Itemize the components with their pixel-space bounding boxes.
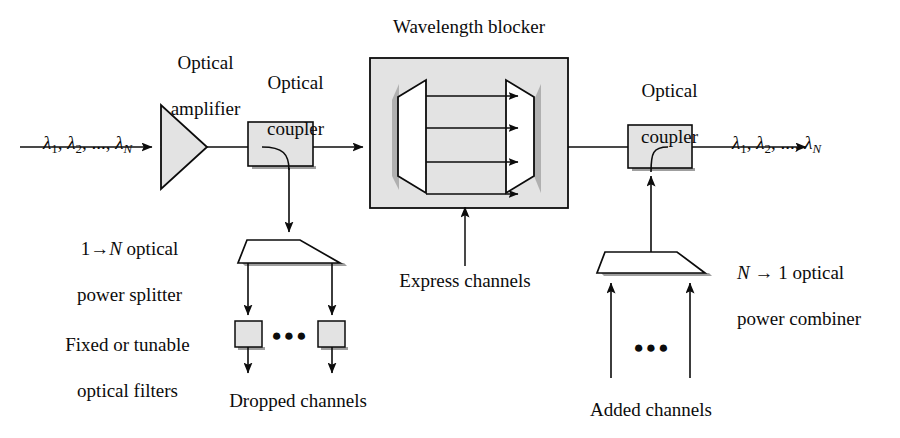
right-arrow-icon: → bbox=[90, 238, 109, 259]
lambda-sub-in-1: 1 bbox=[51, 141, 58, 156]
express-channels-label: Express channels bbox=[381, 270, 549, 292]
splitter-label-n: N bbox=[109, 238, 122, 259]
optical-filters-label: Fixed or tunable optical filters bbox=[28, 310, 208, 425]
lambda-sub-out-1: 1 bbox=[740, 141, 747, 156]
lambda-glyph-out-1: λ bbox=[732, 132, 740, 153]
right-arrow-icon-2: → bbox=[754, 262, 773, 283]
lambda-sep-in-2: , ..., bbox=[82, 132, 115, 153]
splitter-label-one: 1 bbox=[81, 238, 91, 259]
optical-coupler-left-label-line2: coupler bbox=[267, 118, 324, 139]
power-combiner-shape bbox=[597, 252, 705, 273]
combiner-label-one-optical: 1 optical bbox=[778, 262, 844, 283]
splitter-output-arrows bbox=[248, 263, 332, 315]
wavelength-blocker-label: Wavelength blocker bbox=[369, 16, 569, 38]
dropped-channels-label: Dropped channels bbox=[212, 390, 384, 412]
optical-filter-1 bbox=[235, 321, 262, 347]
input-wavelengths-label: λ1, λ2, ..., λN bbox=[24, 110, 174, 178]
optical-amplifier-label-line1: Optical bbox=[178, 52, 234, 73]
lambda-sub-in-2: 2 bbox=[75, 141, 82, 156]
power-combiner-label: N → 1 optical power combiner bbox=[718, 238, 896, 353]
optical-coupler-right-label-line1: Optical bbox=[642, 80, 698, 101]
combiner-label-n: N bbox=[737, 262, 750, 283]
lambda-sub-out-2: 2 bbox=[764, 141, 771, 156]
filters-label-line1: Fixed or tunable bbox=[65, 334, 190, 355]
mux-shadow bbox=[534, 84, 541, 193]
added-channels-label: Added channels bbox=[571, 399, 731, 421]
dropped-ellipsis: ●●● bbox=[262, 325, 318, 347]
optical-coupler-right-label-line2: coupler bbox=[641, 126, 698, 147]
splitter-label-optical: optical bbox=[122, 238, 178, 259]
optical-filter-2 bbox=[318, 321, 345, 347]
optical-coupler-left-label-line1: Optical bbox=[268, 72, 324, 93]
demux-trapezoid bbox=[398, 80, 426, 193]
lambda-sub-out-n: N bbox=[812, 141, 821, 156]
added-ellipsis: ●●● bbox=[624, 337, 680, 359]
mux-trapezoid bbox=[506, 80, 534, 193]
optical-amplifier-label-line2: amplifier bbox=[171, 98, 241, 119]
dropped-channel-arrows bbox=[248, 347, 332, 373]
lambda-glyph-in-1: λ bbox=[43, 132, 51, 153]
filters-label-line2: optical filters bbox=[77, 380, 178, 401]
combiner-label-line2: power combiner bbox=[737, 308, 861, 329]
lambda-sep-out-1: , bbox=[747, 132, 757, 153]
splitter-label-line2: power splitter bbox=[77, 284, 182, 305]
figure-canvas: Optical amplifier Optical coupler Wavele… bbox=[0, 0, 900, 438]
lambda-sep-out-2: , ..., bbox=[771, 132, 804, 153]
optical-coupler-left-label: Optical coupler bbox=[238, 48, 334, 163]
lambda-sep-in-1: , bbox=[58, 132, 68, 153]
optical-coupler-right-label: Optical coupler bbox=[612, 56, 708, 171]
added-channel-arrows bbox=[611, 283, 690, 378]
lambda-sub-in-n: N bbox=[123, 141, 132, 156]
power-splitter-shape bbox=[238, 240, 340, 263]
output-wavelengths-label: λ1, λ2, ..., λN bbox=[713, 110, 873, 178]
